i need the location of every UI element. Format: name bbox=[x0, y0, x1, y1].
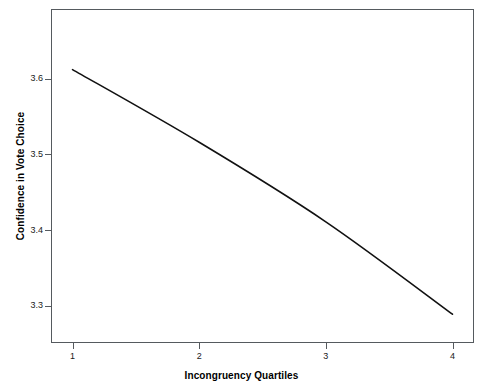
x-tick-label: 2 bbox=[184, 352, 214, 361]
y-tick-mark bbox=[45, 154, 51, 155]
y-tick-label: 3.4 bbox=[30, 226, 43, 235]
y-axis-title: Confidence in Vote Choice bbox=[14, 9, 28, 343]
y-tick-label: 3.6 bbox=[30, 74, 43, 83]
x-axis-title: Incongruency Quartiles bbox=[0, 370, 483, 381]
chart-container: 3.33.43.53.6 1234 Confidence in Vote Cho… bbox=[0, 0, 483, 391]
x-tick-mark bbox=[73, 343, 74, 349]
y-tick-mark bbox=[45, 306, 51, 307]
data-series-line bbox=[73, 70, 453, 315]
y-tick-label: 3.3 bbox=[30, 301, 43, 310]
x-tick-mark bbox=[326, 343, 327, 349]
plot-area bbox=[51, 9, 474, 343]
x-tick-label: 1 bbox=[58, 352, 88, 361]
x-tick-label: 3 bbox=[311, 352, 341, 361]
x-tick-mark bbox=[453, 343, 454, 349]
y-tick-label: 3.5 bbox=[30, 150, 43, 159]
x-tick-label: 4 bbox=[438, 352, 468, 361]
x-tick-mark bbox=[199, 343, 200, 349]
y-tick-mark bbox=[45, 230, 51, 231]
y-tick-mark bbox=[45, 79, 51, 80]
